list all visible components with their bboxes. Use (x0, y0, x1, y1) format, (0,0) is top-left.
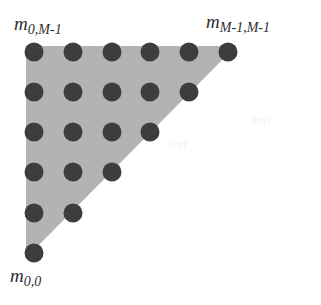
lattice-dot (25, 83, 44, 102)
lattice-dot (219, 43, 238, 62)
label-subscript: 0,M-1 (28, 22, 62, 37)
lattice-dot (25, 43, 44, 62)
lattice-dot (64, 43, 83, 62)
label-subscript: M-1,M-1 (220, 20, 270, 35)
lattice-dot (141, 83, 160, 102)
lattice-dot (64, 123, 83, 142)
lattice-dot (180, 43, 199, 62)
label-base: m (14, 13, 28, 34)
lattice-dot (25, 204, 44, 223)
lattice-dot (103, 83, 122, 102)
lattice-dot (103, 43, 122, 62)
lattice-dot (25, 163, 44, 182)
lattice-dot (141, 43, 160, 62)
figure-root: text text m0,M-1 mM-1,M-1 m0,0 (0, 0, 321, 305)
label-base: m (10, 265, 24, 286)
label-subscript: 0,0 (24, 274, 42, 289)
lattice-dot (180, 83, 199, 102)
lattice-dot (64, 163, 83, 182)
lattice-dot (64, 204, 83, 223)
label-m-0-M-minus-1: m0,M-1 (14, 14, 62, 37)
lattice-dot (141, 123, 160, 142)
lattice-dot (103, 123, 122, 142)
triangle-region (26, 46, 236, 258)
label-m-0-0: m0,0 (10, 266, 41, 289)
label-m-M-minus-1-M-minus-1: mM-1,M-1 (206, 12, 270, 35)
label-base: m (206, 11, 220, 32)
lattice-diagram (0, 0, 321, 305)
lattice-dot (25, 123, 44, 142)
lattice-dot (64, 83, 83, 102)
lattice-dot (25, 244, 44, 263)
lattice-dot (103, 163, 122, 182)
